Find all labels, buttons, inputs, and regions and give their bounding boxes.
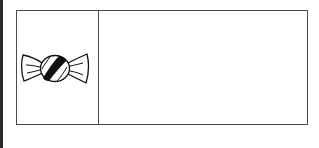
cell-candy xyxy=(17,11,99,124)
left-edge-bar xyxy=(0,0,3,148)
two-cell-frame xyxy=(16,10,308,125)
cell-empty xyxy=(100,11,308,124)
candy-icon xyxy=(20,51,90,87)
